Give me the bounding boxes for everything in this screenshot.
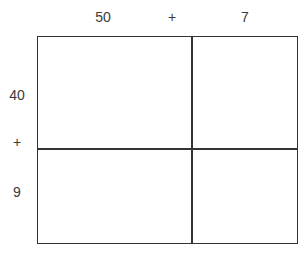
side-label-40: 40 (9, 87, 25, 103)
top-label-plus: + (168, 9, 176, 25)
cell-9x50 (39, 150, 190, 242)
cell-40x7 (193, 38, 296, 147)
cell-40x50 (39, 38, 190, 147)
top-label-7: 7 (241, 9, 249, 25)
side-label-plus: + (13, 134, 21, 150)
cell-9x7 (193, 150, 296, 242)
top-label-50: 50 (95, 9, 111, 25)
side-label-9: 9 (13, 184, 21, 200)
